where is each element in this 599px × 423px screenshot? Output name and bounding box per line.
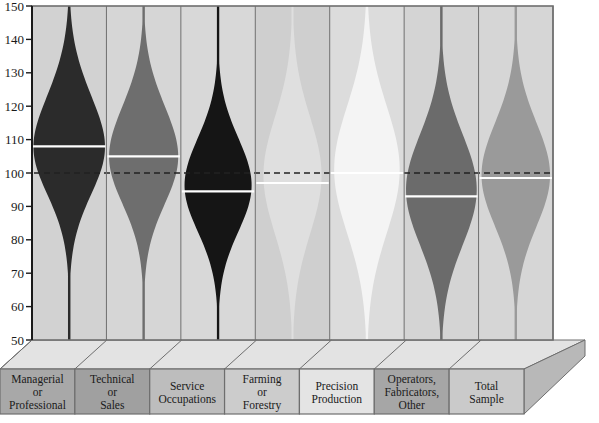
category-tile-label: or	[257, 386, 267, 398]
category-tile-face[interactable]	[299, 369, 374, 414]
category-tile[interactable]: PrecisionProduction	[299, 369, 374, 414]
y-axis-tick-label: 90	[11, 199, 24, 214]
category-tile-face[interactable]	[150, 369, 225, 414]
category-tile-label: Sales	[100, 399, 125, 411]
y-axis-tick-label: 120	[5, 99, 25, 114]
category-tile-label: Managerial	[11, 373, 63, 386]
category-tile-label: Forestry	[243, 399, 282, 412]
category-tile-label: Total	[475, 380, 498, 392]
category-tile-label: Precision	[315, 380, 358, 392]
category-tile[interactable]: TechnicalorSales	[75, 369, 150, 414]
category-tile-label: Other	[399, 399, 425, 411]
y-axis-tick-label: 60	[11, 299, 24, 314]
y-axis-tick-label: 70	[11, 266, 24, 281]
category-tile-label: or	[107, 386, 117, 398]
category-tile-label: Occupations	[158, 393, 216, 406]
y-axis-tick-label: 140	[5, 32, 25, 47]
y-axis-tick-label: 80	[11, 232, 24, 247]
category-tile[interactable]: ManagerialorProfessional	[0, 369, 75, 414]
category-tile[interactable]: TotalSample	[449, 369, 524, 414]
y-axis-tick-label: 50	[11, 333, 24, 348]
chart-canvas: 5060708090100110120130140150 Managerialo…	[0, 0, 599, 423]
category-tile[interactable]: Operators,Fabricators,Other	[374, 369, 449, 414]
category-tile-label: Professional	[9, 399, 66, 411]
category-tile-label: Farming	[243, 373, 282, 386]
category-tile-label: Technical	[90, 373, 135, 385]
y-axis-tick-label: 130	[5, 65, 25, 80]
y-axis-tick-label: 110	[5, 132, 24, 147]
violin-chart-figure: 5060708090100110120130140150 Managerialo…	[0, 0, 599, 423]
category-tile[interactable]: ServiceOccupations	[150, 369, 225, 414]
category-tile-label: Service	[170, 380, 204, 392]
category-tile-label: Sample	[469, 393, 504, 406]
category-tile-label: Production	[312, 393, 363, 405]
y-axis-tick-label: 100	[5, 166, 25, 181]
y-axis-tick-label: 150	[5, 0, 25, 14]
category-tile-label: or	[33, 386, 43, 398]
category-tile-label: Operators,	[388, 373, 436, 386]
category-tile-face[interactable]	[449, 369, 524, 414]
category-tile[interactable]: FarmingorForestry	[225, 369, 300, 414]
category-tile-label: Fabricators,	[384, 386, 439, 399]
y-axis: 5060708090100110120130140150	[5, 0, 33, 348]
